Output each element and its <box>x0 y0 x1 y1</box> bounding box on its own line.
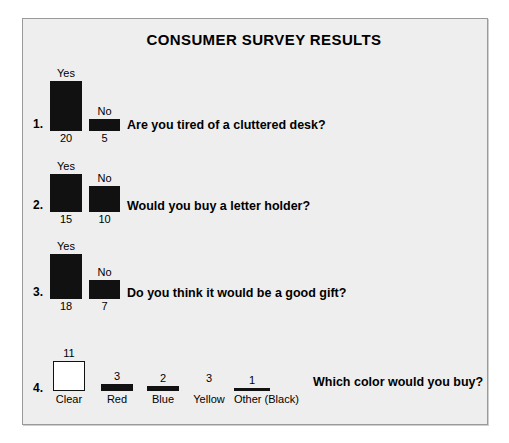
bar-label: Clear <box>53 393 85 405</box>
survey-row-2: 2. Yes 15 No 10 Would you buy a letter h… <box>23 142 487 228</box>
bar-rect <box>53 361 85 391</box>
question-text: Would you buy a letter holder? <box>127 199 310 213</box>
bar-item-yes: Yes 15 <box>50 174 82 212</box>
bar-item-clear: 11 Clear <box>53 361 85 391</box>
bar-value: 15 <box>50 213 82 225</box>
bar-label: Other (Black) <box>234 393 270 405</box>
bar-item-red: 3 Red <box>101 384 133 391</box>
bar-rect <box>89 280 120 299</box>
bar-label: Yes <box>50 240 82 252</box>
bar-rect <box>147 386 179 391</box>
bar-label: No <box>89 172 120 184</box>
bar-item-other: 1 Other (Black) <box>234 388 270 391</box>
bar-label: No <box>89 105 120 117</box>
bar-label: Yellow <box>192 393 226 405</box>
bar-item-yes: Yes 20 <box>50 81 82 131</box>
page-title: CONSUMER SURVEY RESULTS <box>23 31 487 48</box>
bar-value: 3 <box>101 370 133 382</box>
question-text: Which color would you buy? <box>313 375 483 389</box>
chart-panel: CONSUMER SURVEY RESULTS 1. Yes 20 No 5 A… <box>22 18 488 425</box>
survey-row-3: 3. Yes 18 No 7 Do you think it would be … <box>23 229 487 315</box>
bar-rect <box>50 174 82 212</box>
bar-rect <box>89 119 120 131</box>
bar-rect <box>192 386 226 391</box>
bar-item-yellow: 3 Yellow <box>192 386 226 391</box>
bar-item-blue: 2 Blue <box>147 386 179 391</box>
bar-value: 11 <box>53 347 85 359</box>
bar-value: 2 <box>147 372 179 384</box>
survey-row-4: 4. 11 Clear 3 Red 2 Blue 3 Yellow <box>23 339 487 411</box>
bar-item-no: No 5 <box>89 119 120 131</box>
bar-item-yes: Yes 18 <box>50 254 82 299</box>
bar-rect <box>234 388 270 391</box>
bar-label: Blue <box>147 393 179 405</box>
bar-rect <box>101 384 133 391</box>
question-text: Do you think it would be a good gift? <box>127 286 346 300</box>
bar-rect <box>50 81 82 131</box>
survey-row-1: 1. Yes 20 No 5 Are you tired of a clutte… <box>23 61 487 147</box>
bar-item-no: No 10 <box>89 186 120 212</box>
bar-value: 10 <box>89 213 120 225</box>
bar-value: 3 <box>192 372 226 384</box>
bar-rect <box>89 186 120 212</box>
bar-label: No <box>89 266 120 278</box>
bar-rect <box>50 254 82 299</box>
bar-value: 18 <box>50 300 82 312</box>
bar-item-no: No 7 <box>89 280 120 299</box>
bar-label: Yes <box>50 67 82 79</box>
bar-label: Yes <box>50 160 82 172</box>
bar-label: Red <box>101 393 133 405</box>
question-text: Are you tired of a cluttered desk? <box>127 118 326 132</box>
bar-value: 7 <box>89 300 120 312</box>
bar-value: 1 <box>234 374 270 386</box>
